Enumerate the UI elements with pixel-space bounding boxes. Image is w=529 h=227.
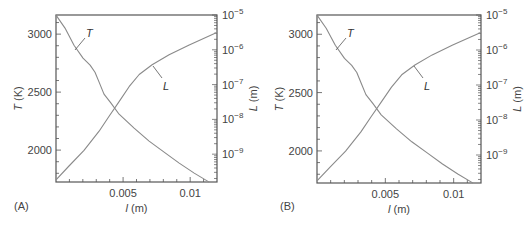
y-right-tick-label: 10−6 <box>222 42 244 56</box>
y-right-tick-label: 10−8 <box>486 112 508 126</box>
panel-label: (A) <box>14 200 29 212</box>
x-tick-label: 0.01 <box>443 188 464 200</box>
x-tick-label: 0.01 <box>179 187 200 199</box>
x-tick-label: 0.005 <box>372 188 400 200</box>
l-leader-line <box>414 66 423 78</box>
series-t-curve <box>317 15 473 183</box>
y-left-tick-label: 3000 <box>28 28 52 40</box>
plot-frame <box>56 15 217 182</box>
y-left-tick-label: 2500 <box>289 87 313 99</box>
l-curve-label: L <box>163 80 169 92</box>
y-right-tick-label: 10−9 <box>486 147 508 161</box>
t-curve-label: T <box>347 27 355 39</box>
l-curve-label: L <box>424 80 430 92</box>
figure: 0.0050.0120002500300010−510−610−710−810−… <box>0 0 529 227</box>
y-right-tick-label: 10−6 <box>486 42 508 56</box>
y-left-axis-label: T (K) <box>12 86 24 110</box>
t-curve-label: T <box>86 27 94 39</box>
y-left-tick-label: 2000 <box>28 144 52 156</box>
y-right-tick-label: 10−7 <box>222 77 244 91</box>
t-leader-line <box>336 38 346 50</box>
chart-panel-a: 0.0050.0120002500300010−510−610−710−810−… <box>12 7 259 214</box>
y-right-tick-label: 10−5 <box>486 7 508 21</box>
x-axis-label: l (m) <box>126 202 148 214</box>
t-leader-line <box>75 38 85 50</box>
chart-panel-b: 0.0050.0120002500300010−510−610−710−810−… <box>273 7 523 215</box>
x-tick-label: 0.005 <box>109 187 137 199</box>
y-right-axis-label: L (m) <box>511 86 523 112</box>
y-right-tick-label: 10−9 <box>222 146 244 160</box>
y-left-tick-label: 3000 <box>289 28 313 40</box>
y-right-tick-label: 10−5 <box>222 7 244 21</box>
series-t-curve <box>56 15 209 182</box>
l-leader-line <box>153 66 162 78</box>
y-right-tick-label: 10−8 <box>222 111 244 125</box>
y-right-axis-label: L (m) <box>247 86 259 112</box>
y-left-tick-label: 2000 <box>289 145 313 157</box>
y-left-axis-label: T (K) <box>273 87 285 111</box>
y-left-tick-label: 2500 <box>28 86 52 98</box>
panel-label: (B) <box>280 200 295 212</box>
x-axis-label: l (m) <box>388 203 410 215</box>
y-right-tick-label: 10−7 <box>486 77 508 91</box>
plot-frame <box>317 15 481 183</box>
